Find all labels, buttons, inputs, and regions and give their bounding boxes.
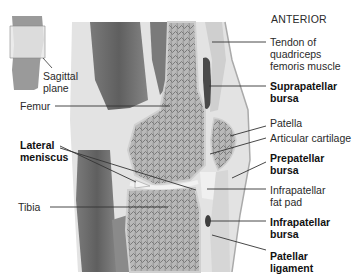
patellar-ligament-label-line2: ligament (270, 262, 313, 274)
tibia-label: Tibia (18, 201, 40, 213)
articular-cartilage-label: Articular cartilage (270, 132, 351, 144)
sagittal-plane-label-line2: plane (43, 82, 69, 94)
infrapatellar-fat-label-line1: Infrapatellar (270, 184, 325, 196)
anterior-label: ANTERIOR (271, 13, 327, 25)
lateral-meniscus-label-line1: Lateral (20, 139, 54, 151)
suprapatellar-label-line1: Suprapatellar (270, 80, 337, 92)
prepatellar-label-line2: bursa (270, 164, 299, 176)
sagittal-plane-label-line1: Sagittal (43, 70, 78, 82)
patellar-ligament-label-line1: Patellar (270, 250, 308, 262)
suprapatellar-label-line2: bursa (270, 92, 299, 104)
tendon-label-line3: femoris muscle (270, 60, 341, 72)
patella-label: Patella (270, 117, 302, 129)
femur-label: Femur (20, 100, 50, 112)
infrapatellar-fat-label-line2: fat pad (270, 196, 302, 208)
tendon-label-line1: Tendon of (270, 36, 316, 48)
tibia (126, 188, 200, 272)
infrapatellar-bursa-label-line1: Infrapatellar (270, 216, 330, 228)
prepatellar-label-line1: Prepatellar (270, 152, 324, 164)
lateral-meniscus-label-line2: meniscus (20, 151, 68, 163)
tendon-label-line2: quadriceps (270, 48, 321, 60)
infrapatellar-bursa-label-line2: bursa (270, 228, 299, 240)
